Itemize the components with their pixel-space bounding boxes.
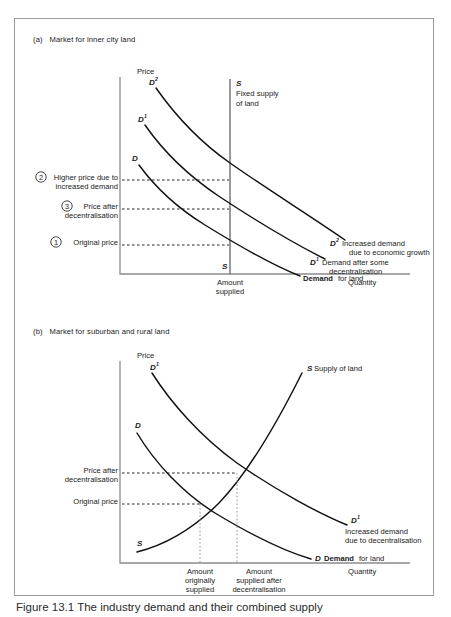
marker-number-2-a: 2 xyxy=(39,173,43,182)
marker-label-3-line2-a: decentralisation xyxy=(65,211,118,220)
figure-frame: (a)Market for inner city land Price Quan… xyxy=(14,18,434,596)
demand-curve-d-a xyxy=(139,165,300,276)
legend-d-symbol-b: D xyxy=(315,554,321,563)
legend-d2-sup-a: 2 xyxy=(335,237,339,243)
legend-d1-line2-b: due to decentralisation xyxy=(345,536,421,545)
curve-label-d1-sup-b: 1 xyxy=(156,361,159,367)
legend-d1-line1-a: Demand after some xyxy=(322,258,389,267)
x-tick-after-line3-b: decentralisation xyxy=(232,585,285,594)
legend-d1-line1-b: Increased demand xyxy=(345,527,408,536)
x-tick-original-line2-b: originally xyxy=(185,576,215,585)
demand-curve-d1-b xyxy=(152,373,347,525)
marker-label-3-line1-a: Price after xyxy=(83,202,118,211)
supply-note-line1-a: Fixed supply xyxy=(236,89,279,98)
demand-curve-d-b xyxy=(137,433,311,559)
x-axis-label-b: Quantity xyxy=(348,567,376,576)
marker-number-1-a: 1 xyxy=(54,238,58,247)
supply-symbol-top-a: S xyxy=(236,79,242,88)
chart-b: Price Quantity S Supply of land S D 1 D … xyxy=(15,311,435,597)
legend-demand-bold-b: Demand xyxy=(324,554,354,563)
legend-d1-sup-b: 1 xyxy=(357,514,360,520)
y-axis-label-b: Price xyxy=(137,351,154,360)
marker-label-2-line2-a: increased demand xyxy=(56,182,118,191)
panel-inner-city-land: (a)Market for inner city land Price Quan… xyxy=(15,19,435,311)
panel-suburban-rural-land: (b)Market for suburban and rural land Pr… xyxy=(15,311,435,597)
price-label-after-line2-b: decentralisation xyxy=(65,475,118,484)
demand-curve-d1-a xyxy=(145,125,325,259)
price-label-original-b: Original price xyxy=(73,497,118,506)
supply-note-line2-a: of land xyxy=(236,99,259,108)
x-tick-amount-supplied-line1-a: Amount xyxy=(217,278,244,287)
supply-symbol-top-b: S xyxy=(307,364,313,373)
x-tick-after-line1-b: Amount xyxy=(246,567,273,576)
curve-label-d-a: D xyxy=(132,154,138,163)
price-label-after-line1-b: Price after xyxy=(83,466,118,475)
legend-d2-line2-a: due to economic growth xyxy=(349,248,430,257)
supply-curve-b xyxy=(137,373,302,552)
marker-label-2-line1-a: Higher price due to xyxy=(54,173,118,182)
legend-d1-sup-a: 1 xyxy=(316,256,319,262)
figure-caption: Figure 13.1 The industry demand and thei… xyxy=(16,600,436,617)
x-tick-original-line3-b: supplied xyxy=(186,585,214,594)
legend-demand-rest-b: for land xyxy=(359,554,384,563)
x-tick-amount-supplied-line2-a: supplied xyxy=(216,287,244,296)
curve-label-d1-sup-a: 1 xyxy=(144,113,147,119)
curve-label-d-b: D xyxy=(135,421,141,430)
y-axis-label-a: Price xyxy=(137,67,154,76)
supply-symbol-bottom-b: S xyxy=(137,539,143,548)
marker-number-3-a: 3 xyxy=(65,202,69,211)
curve-label-d2-sup-a: 2 xyxy=(154,76,158,82)
marker-label-1-line1-a: Original price xyxy=(73,238,118,247)
x-tick-after-line2-b: supplied after xyxy=(236,576,282,585)
supply-note-line1-b: Supply of land xyxy=(314,364,362,373)
chart-a: Price Quantity S Fixed supply of land S … xyxy=(15,19,435,311)
supply-symbol-bottom-a: S xyxy=(222,262,228,271)
legend-demand-bold-a: Demand xyxy=(303,274,333,283)
x-tick-original-line1-b: Amount xyxy=(187,567,214,576)
legend-d2-line1-a: Increased demand xyxy=(342,239,405,248)
legend-demand-rest-a: for land xyxy=(338,274,363,283)
